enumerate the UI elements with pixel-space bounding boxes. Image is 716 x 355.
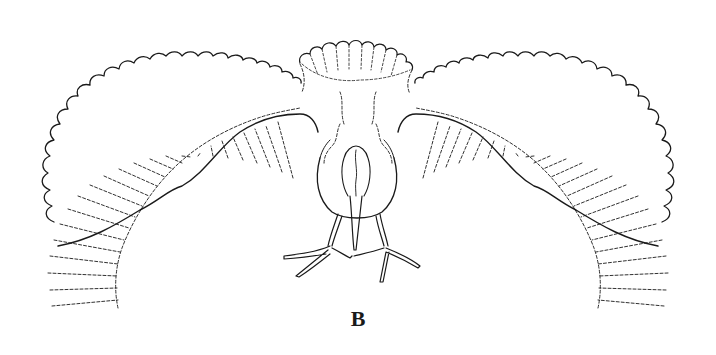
crest-right bbox=[372, 92, 376, 124]
figure-label: B bbox=[0, 306, 716, 332]
left-underwing-edge bbox=[58, 114, 318, 246]
right-shoulder bbox=[408, 70, 412, 94]
right-wing-feather-lines bbox=[423, 122, 668, 306]
body-side-right bbox=[384, 140, 394, 158]
right-wing-outline bbox=[415, 52, 674, 222]
neck-right bbox=[376, 124, 392, 164]
back-crest-outline bbox=[300, 41, 413, 71]
left-wing-outline bbox=[42, 52, 301, 222]
back-crest-feather-lines bbox=[302, 45, 410, 81]
left-shoulder bbox=[300, 64, 304, 92]
right-leg bbox=[376, 214, 388, 246]
beak bbox=[350, 196, 362, 250]
left-foot bbox=[284, 246, 352, 277]
crest-left bbox=[340, 92, 344, 124]
right-foot bbox=[354, 248, 420, 282]
bird-drawing bbox=[0, 0, 716, 355]
body-outline bbox=[317, 158, 396, 218]
body-side-left bbox=[320, 140, 330, 158]
head-center-line bbox=[355, 150, 356, 196]
bird-illustration bbox=[0, 0, 716, 355]
left-leg bbox=[328, 214, 342, 246]
right-underwing-edge bbox=[398, 114, 658, 246]
left-wing-feather-lines bbox=[48, 122, 293, 306]
